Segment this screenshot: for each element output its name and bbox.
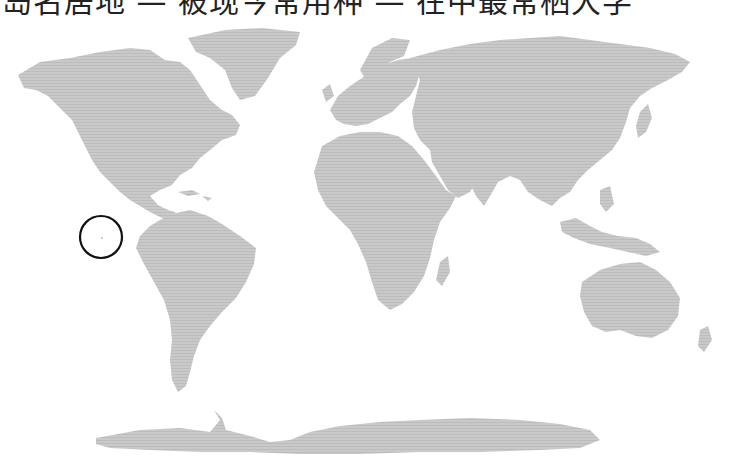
new-zealand xyxy=(698,326,712,352)
north-america xyxy=(18,48,240,222)
japan xyxy=(636,104,652,138)
caribbean-islands xyxy=(178,190,212,201)
south-america xyxy=(136,210,256,392)
antarctica xyxy=(96,410,600,454)
philippines xyxy=(600,186,614,212)
australia xyxy=(580,262,680,338)
british-isles xyxy=(322,84,334,102)
greenland xyxy=(188,28,300,100)
world-map xyxy=(0,0,734,476)
southeast-asia-islands xyxy=(560,218,660,256)
galapagos-islands-dot xyxy=(101,237,103,239)
location-marker-circle xyxy=(80,216,122,258)
madagascar xyxy=(436,256,450,286)
